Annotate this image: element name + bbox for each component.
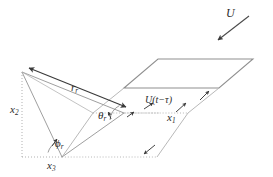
label-retarded-velocity: U(t−τ) xyxy=(145,95,172,105)
ground-plane-edges xyxy=(62,88,219,157)
label-phi-r: ϕr xyxy=(55,138,64,151)
figure-canvas: U U(t−τ) x1 x2 x3 rr θr ϕr xyxy=(0,0,273,177)
label-theta-r: θr xyxy=(98,110,106,123)
label-radius-rr: rr xyxy=(71,82,78,95)
plate-parallelogram xyxy=(124,59,253,88)
retarded-position-pointer xyxy=(124,103,160,117)
diagram-vector-layer xyxy=(0,0,273,177)
label-velocity-U: U xyxy=(226,7,235,19)
label-axis-x1: x1 xyxy=(167,112,176,125)
label-axis-x2: x2 xyxy=(10,104,19,117)
label-axis-x3: x3 xyxy=(47,160,56,173)
